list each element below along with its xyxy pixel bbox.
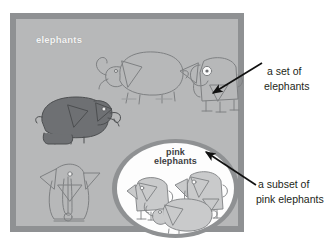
annotation-set-line1: a set of xyxy=(264,64,310,79)
line-elephant-top-right xyxy=(176,45,246,117)
pink-elephant-bottom xyxy=(143,195,219,234)
line-elephant-bottom-left xyxy=(32,155,108,229)
subset-ellipse: pink elephants xyxy=(112,139,239,238)
universal-set-interior: elephants xyxy=(16,19,238,226)
annotation-subset-line1: a subset of xyxy=(256,177,324,192)
diagram-canvas: elephants xyxy=(0,0,329,248)
annotation-subset-line2: pink elephants xyxy=(256,192,324,207)
universal-set-label: elephants xyxy=(36,35,82,45)
annotation-a-subset-of-pink-elephants: a subset of pink elephants xyxy=(256,177,324,207)
universal-set-box: elephants xyxy=(10,13,244,232)
subset-ellipse-interior: pink elephants xyxy=(117,143,234,234)
annotation-set-line2: elephants xyxy=(264,79,310,94)
annotation-a-set-of-elephants: a set of elephants xyxy=(264,64,310,94)
